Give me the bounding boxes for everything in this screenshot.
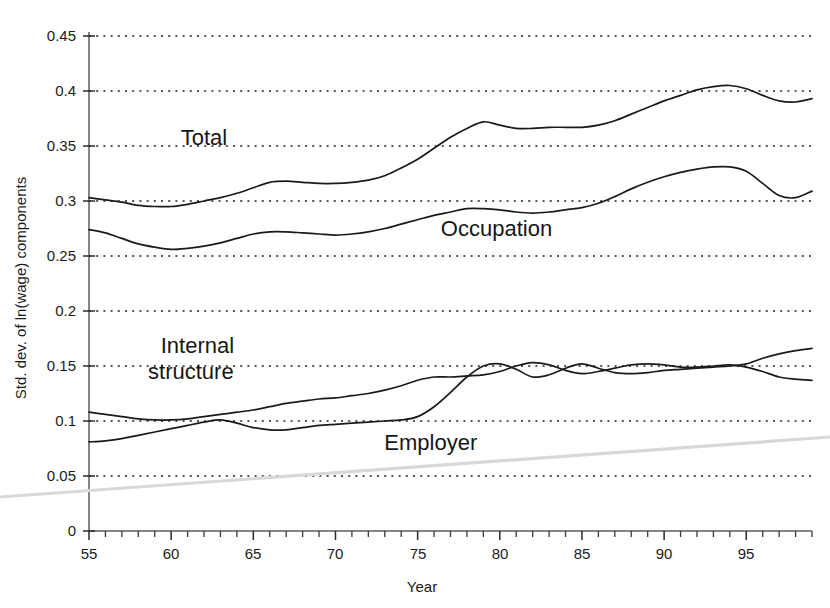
y-tick-label: 0.3 bbox=[55, 192, 76, 209]
total-label: Total bbox=[181, 125, 227, 150]
x-tick-label: 85 bbox=[574, 545, 591, 562]
x-tick-label: 65 bbox=[245, 545, 262, 562]
gridlines bbox=[89, 36, 812, 476]
y-tick-label: 0.25 bbox=[47, 247, 76, 264]
y-tick-labels: 0.45 0.4 0.35 0.3 0.25 0.2 0.15 0.1 0.05… bbox=[47, 27, 76, 539]
internal-structure-label-line2: structure bbox=[148, 359, 234, 384]
x-tick-label: 70 bbox=[327, 545, 344, 562]
occupation-label: Occupation bbox=[441, 216, 552, 241]
y-tick-label: 0.05 bbox=[47, 467, 76, 484]
series-annotations: TotalOccupationInternalstructureEmployer bbox=[148, 125, 552, 455]
x-tick-marks bbox=[89, 531, 812, 540]
x-tick-label: 95 bbox=[738, 545, 755, 562]
y-tick-label: 0.35 bbox=[47, 137, 76, 154]
y-tick-label: 0.1 bbox=[55, 412, 76, 429]
y-tick-label: 0.15 bbox=[47, 357, 76, 374]
line-chart: 0.45 0.4 0.35 0.3 0.25 0.2 0.15 0.1 0.05… bbox=[0, 0, 830, 608]
y-tick-label: 0.2 bbox=[55, 302, 76, 319]
x-tick-label: 55 bbox=[81, 545, 98, 562]
y-tick-label: 0 bbox=[68, 522, 76, 539]
x-tick-label: 80 bbox=[492, 545, 509, 562]
chart-screenshot: 0.45 0.4 0.35 0.3 0.25 0.2 0.15 0.1 0.05… bbox=[0, 0, 830, 608]
employer-label: Employer bbox=[384, 430, 477, 455]
x-tick-label: 75 bbox=[410, 545, 427, 562]
x-tick-labels: 55 60 65 70 75 80 85 90 95 bbox=[81, 545, 755, 562]
x-tick-label: 90 bbox=[656, 545, 673, 562]
axes bbox=[89, 32, 812, 531]
y-tick-label: 0.45 bbox=[47, 27, 76, 44]
y-tick-label: 0.4 bbox=[55, 82, 76, 99]
x-axis-title: Year bbox=[407, 578, 437, 595]
x-tick-label: 60 bbox=[163, 545, 180, 562]
y-axis-title: Std. dev. of ln(wage) components bbox=[12, 177, 29, 399]
internal-structure-label-line1: Internal bbox=[161, 333, 234, 358]
